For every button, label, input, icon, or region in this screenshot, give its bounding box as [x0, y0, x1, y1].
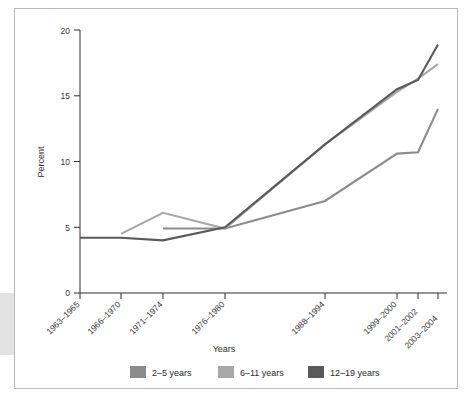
x-axis-ticks: [80, 293, 438, 299]
legend-label-2-5-years: 2–5 years: [152, 368, 192, 378]
x-tick-label-4: 1988–1994: [289, 299, 326, 336]
series-line-6-11-years: [121, 64, 438, 234]
x-axis-title: Years: [213, 344, 236, 354]
legend-label-6-11-years: 6–11 years: [240, 368, 284, 378]
x-tick-label-3: 1976–1980: [189, 299, 226, 336]
x-tick-label-1: 1966–1970: [85, 299, 122, 336]
y-tick-label-20: 20: [61, 26, 71, 36]
x-tick-label-2: 1971–1974: [127, 299, 164, 336]
y-tick-label-10: 10: [61, 157, 71, 167]
y-tick-label-0: 0: [65, 288, 70, 298]
y-tick-label-5: 5: [65, 223, 70, 233]
y-tick-label-15: 15: [61, 91, 71, 101]
legend-label-12-19-years: 12–19 years: [330, 368, 380, 378]
series-line-12-19-years: [80, 44, 438, 240]
y-axis-ticks: [74, 30, 80, 293]
legend-swatch-6-11-years: [218, 366, 234, 378]
chart-legend: 2–5 years 6–11 years 12–19 years: [130, 366, 380, 378]
figure-page: 0 5 10 15 20 Percent 1963–1965 1966–1970…: [0, 0, 472, 402]
legend-swatch-12-19-years: [308, 366, 324, 378]
y-axis-title: Percent: [36, 146, 46, 178]
x-tick-label-0: 1963–1965: [44, 299, 81, 336]
series-line-2-5-years: [163, 109, 438, 229]
line-chart: 0 5 10 15 20 Percent 1963–1965 1966–1970…: [0, 0, 472, 402]
legend-swatch-2-5-years: [130, 366, 146, 378]
